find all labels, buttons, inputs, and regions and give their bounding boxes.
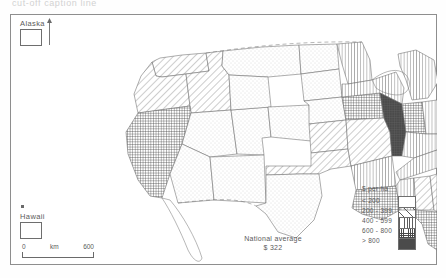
state-northdakota (299, 44, 339, 74)
legend-swatch-blank-icon (399, 197, 415, 208)
national-average-annotation: National average $ 322 (218, 234, 328, 252)
hawaii-inset-label: Hawaii (20, 212, 45, 221)
legend-label-class-4: 600 - 800 (362, 226, 392, 236)
state-newmexico (210, 155, 266, 203)
scale-bar: 0 km 600 (22, 243, 94, 258)
alaska-inset-label: Alaska (20, 19, 45, 28)
legend-swatch-vertical-lines-icon (399, 218, 415, 229)
state-wyoming (229, 75, 271, 110)
hawaii-marker-icon (21, 205, 24, 208)
state-colorado (268, 105, 311, 141)
scale-unit-label: km (50, 243, 59, 250)
state-florida (416, 210, 437, 250)
legend-swatch-solid-dark-icon (399, 239, 415, 249)
legend-label-column: < 200 200 - 399 400 - 599 600 - 800 > 80… (362, 196, 392, 246)
state-iowa (342, 93, 384, 120)
scale-bar-rule (22, 252, 94, 258)
state-michigan (398, 50, 437, 100)
baja-california-outline (162, 198, 202, 261)
state-utah (231, 107, 271, 155)
legend-label-class-3: 400 - 599 (362, 216, 392, 226)
figure-caption-text: cut-off caption line (0, 0, 446, 7)
national-average-label: National average (218, 234, 328, 243)
state-nebraska (304, 97, 346, 124)
state-oklahoma (266, 149, 351, 175)
legend-swatch-diagonal-hatch-icon (399, 208, 415, 219)
scale-max-label: 600 (83, 243, 94, 250)
legend-swatch-crosshatch-icon (399, 229, 415, 240)
national-average-value: $ 322 (218, 243, 328, 252)
state-southdakota (301, 69, 342, 101)
legend-label-class-2: 200 - 399 (362, 206, 392, 216)
legend-label-class-1: < 200 (362, 196, 392, 206)
alaska-inset-box (20, 29, 42, 46)
state-kansas (309, 120, 348, 153)
legend-title: $ per ha (362, 185, 416, 192)
state-minnesota (337, 42, 372, 84)
state-texas (256, 174, 322, 238)
scale-min-label: 0 (22, 243, 26, 250)
hawaii-inset-box (20, 222, 42, 239)
legend-swatch-column (398, 196, 416, 250)
figure-caption-clipped: cut-off caption line (0, 0, 446, 11)
map-figure: cut-off caption line (0, 0, 446, 278)
legend-label-class-5: > 800 (362, 236, 392, 246)
north-arrow-icon (46, 18, 53, 45)
map-legend: $ per ha < 200 200 - 399 400 - 599 600 -… (362, 185, 416, 250)
state-montana (222, 45, 301, 77)
